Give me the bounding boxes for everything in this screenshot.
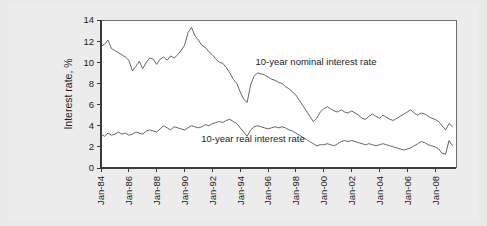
series-annotation-label: 10-year real interest rate bbox=[201, 133, 305, 144]
x-tick-label: Jan-02 bbox=[346, 176, 357, 205]
y-tick-label: 10 bbox=[83, 57, 94, 68]
y-tick-label: 2 bbox=[89, 141, 94, 152]
y-tick-label: 4 bbox=[89, 120, 94, 131]
x-tick-label: Jan-92 bbox=[207, 176, 218, 205]
x-tick-label: Jan-88 bbox=[151, 176, 162, 205]
x-tick-label: Jan-96 bbox=[262, 176, 273, 205]
x-tick-label: Jan-86 bbox=[123, 176, 134, 205]
plot-background bbox=[101, 20, 456, 168]
x-tick-label: Jan-08 bbox=[430, 176, 441, 205]
y-tick-label: 12 bbox=[83, 36, 94, 47]
x-tick-label: Jan-06 bbox=[402, 176, 413, 205]
x-axis-tick-labels: Jan-84Jan-86Jan-88Jan-90Jan-92Jan-94Jan-… bbox=[95, 176, 440, 205]
x-tick-label: Jan-04 bbox=[374, 176, 385, 205]
x-tick-label: Jan-90 bbox=[179, 176, 190, 205]
x-axis-ticks bbox=[101, 168, 435, 172]
series-annotation-label: 10-year nominal interest rate bbox=[256, 56, 377, 67]
x-tick-label: Jan-84 bbox=[95, 176, 106, 205]
figure-container: 02468101214 Jan-84Jan-86Jan-88Jan-90Jan-… bbox=[0, 0, 487, 226]
x-tick-label: Jan-94 bbox=[235, 176, 246, 205]
x-tick-label: Jan-98 bbox=[290, 176, 301, 205]
interest-rate-line-chart: 02468101214 Jan-84Jan-86Jan-88Jan-90Jan-… bbox=[0, 0, 487, 226]
y-axis-title: Interest rate, % bbox=[62, 58, 74, 129]
y-tick-label: 0 bbox=[89, 162, 94, 173]
y-axis-ticks bbox=[97, 20, 101, 168]
y-tick-label: 8 bbox=[89, 78, 94, 89]
x-tick-label: Jan-00 bbox=[318, 176, 329, 205]
y-axis-tick-labels: 02468101214 bbox=[83, 14, 94, 173]
y-tick-label: 14 bbox=[83, 14, 94, 25]
y-tick-label: 6 bbox=[89, 99, 94, 110]
